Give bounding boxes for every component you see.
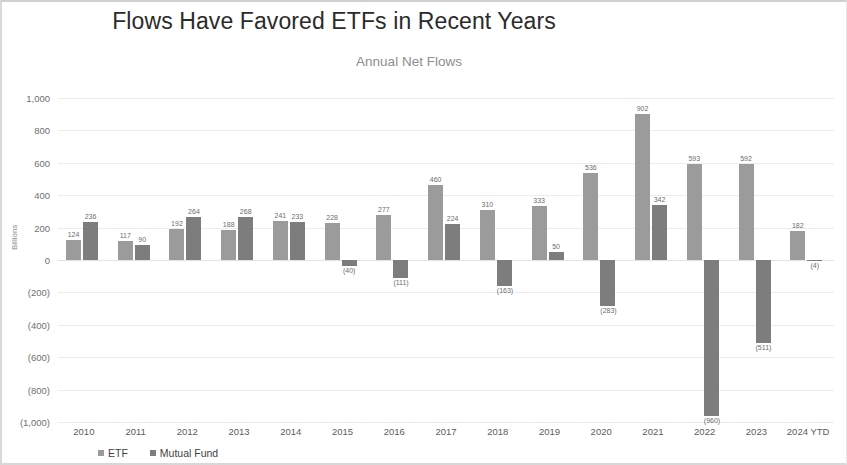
bar[interactable] bbox=[428, 185, 443, 260]
bar-value-label: 310 bbox=[480, 201, 495, 208]
bar[interactable] bbox=[480, 210, 495, 260]
bar-group: 310(163) bbox=[472, 98, 524, 422]
bar-value-label: 192 bbox=[169, 220, 184, 227]
bar[interactable] bbox=[600, 260, 615, 306]
bar-group: 182(4) bbox=[782, 98, 834, 422]
bar[interactable] bbox=[83, 222, 98, 260]
bar-series-group: 12423611790192264188268241233228(40)277(… bbox=[58, 98, 834, 422]
y-axis-tick-label: 0 bbox=[45, 255, 50, 266]
legend-label: ETF bbox=[108, 447, 128, 459]
legend-item[interactable]: Mutual Fund bbox=[150, 447, 218, 459]
x-axis-tick-label: 2012 bbox=[177, 426, 198, 437]
bar-value-label: (511) bbox=[756, 344, 771, 351]
bar-value-label: 90 bbox=[135, 236, 150, 243]
bar[interactable] bbox=[445, 224, 460, 260]
bar-value-label: 902 bbox=[635, 105, 650, 112]
bar[interactable] bbox=[635, 114, 650, 260]
bar-value-label: 592 bbox=[739, 155, 754, 162]
bar[interactable] bbox=[325, 223, 340, 260]
bar[interactable] bbox=[532, 206, 547, 260]
bar-group: 460224 bbox=[420, 98, 472, 422]
bar[interactable] bbox=[135, 245, 150, 260]
bar-value-label: 236 bbox=[83, 213, 98, 220]
bar[interactable] bbox=[583, 173, 598, 260]
y-axis-tick-label: 800 bbox=[34, 125, 50, 136]
bar-value-label: 536 bbox=[583, 164, 598, 171]
bar-group: 11790 bbox=[110, 98, 162, 422]
legend-label: Mutual Fund bbox=[160, 447, 218, 459]
bar[interactable] bbox=[549, 252, 564, 260]
bar-group: 902342 bbox=[627, 98, 679, 422]
bar[interactable] bbox=[66, 240, 81, 260]
x-axis-tick-label: 2016 bbox=[384, 426, 405, 437]
bar-group: 124236 bbox=[58, 98, 110, 422]
chart-subtitle: Annual Net Flows bbox=[2, 54, 846, 69]
bar-value-label: 124 bbox=[66, 231, 81, 238]
bar-group: 192264 bbox=[161, 98, 213, 422]
x-axis-tick-label: 2023 bbox=[746, 426, 767, 437]
y-axis-tick-label: 200 bbox=[34, 222, 50, 233]
bar[interactable] bbox=[118, 241, 133, 260]
bar[interactable] bbox=[290, 222, 305, 260]
bar[interactable] bbox=[807, 260, 822, 261]
plot-area: 1,0008006004002000(200)(400)(600)(800)(1… bbox=[58, 98, 834, 422]
bar-group: 228(40) bbox=[317, 98, 369, 422]
bar-group: 592(511) bbox=[731, 98, 783, 422]
x-axis-tick-label: 2022 bbox=[694, 426, 715, 437]
bar-group: 593(960) bbox=[679, 98, 731, 422]
bar-group: 277(111) bbox=[368, 98, 420, 422]
bar[interactable] bbox=[497, 260, 512, 286]
bar[interactable] bbox=[652, 205, 667, 260]
bar-value-label: 241 bbox=[273, 212, 288, 219]
bar-value-label: (163) bbox=[497, 287, 512, 294]
y-axis-tick-label: (800) bbox=[28, 384, 50, 395]
legend-swatch-icon bbox=[98, 450, 104, 456]
y-axis-tick-label: (400) bbox=[28, 319, 50, 330]
legend-swatch-icon bbox=[150, 450, 156, 456]
bar[interactable] bbox=[739, 164, 754, 260]
bar-value-label: 224 bbox=[445, 215, 460, 222]
bar-value-label: 277 bbox=[376, 206, 391, 213]
bar-group: 536(283) bbox=[575, 98, 627, 422]
bar[interactable] bbox=[238, 217, 253, 260]
bar-value-label: (960) bbox=[704, 417, 719, 424]
chart-legend: ETFMutual Fund bbox=[98, 447, 218, 459]
legend-item[interactable]: ETF bbox=[98, 447, 128, 459]
bar-value-label: 50 bbox=[549, 243, 564, 250]
bar-value-label: 460 bbox=[428, 176, 443, 183]
bar[interactable] bbox=[342, 260, 357, 266]
y-axis-tick-label: 400 bbox=[34, 190, 50, 201]
x-axis-tick-label: 2020 bbox=[591, 426, 612, 437]
bar-value-label: 117 bbox=[118, 232, 133, 239]
x-axis-tick-label: 2024 YTD bbox=[787, 426, 830, 437]
x-axis-tick-label: 2015 bbox=[332, 426, 353, 437]
bar-value-label: 268 bbox=[238, 208, 253, 215]
bar[interactable] bbox=[393, 260, 408, 278]
bar-value-label: 264 bbox=[186, 208, 201, 215]
bar-group: 241233 bbox=[265, 98, 317, 422]
bar[interactable] bbox=[704, 260, 719, 416]
y-axis-tick-label: (200) bbox=[28, 287, 50, 298]
bar[interactable] bbox=[790, 231, 805, 260]
y-axis-title: Billions bbox=[10, 225, 19, 250]
bar-value-label: 233 bbox=[290, 213, 305, 220]
x-axis-tick-label: 2018 bbox=[487, 426, 508, 437]
bar-value-label: 333 bbox=[532, 197, 547, 204]
bar-value-label: (40) bbox=[342, 267, 357, 274]
bar[interactable] bbox=[376, 215, 391, 260]
bar-value-label: 228 bbox=[325, 214, 340, 221]
bar-value-label: 182 bbox=[790, 222, 805, 229]
bar-value-label: (4) bbox=[807, 262, 822, 269]
bar[interactable] bbox=[273, 221, 288, 260]
x-axis-tick-label: 2011 bbox=[125, 426, 145, 437]
bar[interactable] bbox=[169, 229, 184, 260]
x-axis-tick-label: 2010 bbox=[73, 426, 94, 437]
bar[interactable] bbox=[756, 260, 771, 343]
y-axis-tick-label: 600 bbox=[34, 157, 50, 168]
x-axis-tick-labels: 2010201120122013201420152016201720182019… bbox=[58, 426, 834, 442]
bar[interactable] bbox=[186, 217, 201, 260]
bar-value-label: 188 bbox=[221, 221, 236, 228]
bar[interactable] bbox=[221, 230, 236, 260]
bar[interactable] bbox=[687, 164, 702, 260]
bar-group: 188268 bbox=[213, 98, 265, 422]
